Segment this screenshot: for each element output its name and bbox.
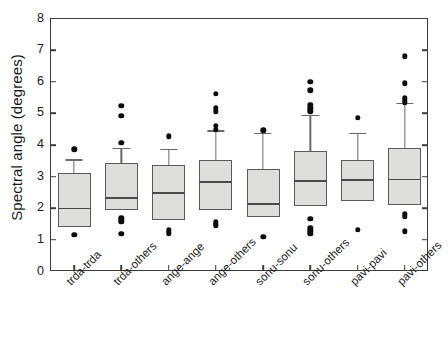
y-tick-label: 1 [30, 232, 44, 246]
whisker-cap-upper [349, 133, 366, 134]
y-tick-mark [51, 81, 56, 83]
outlier-point [355, 227, 360, 232]
y-tick-mark-right [422, 144, 427, 146]
outlier-point [402, 100, 407, 105]
outlier-point [119, 219, 124, 224]
y-tick-label: 2 [30, 200, 44, 214]
outlier-point [308, 216, 313, 221]
whisker-cap-upper [160, 149, 177, 150]
outlier-point [355, 115, 360, 120]
median-line [388, 179, 421, 181]
outlier-point [308, 231, 313, 236]
box [294, 151, 327, 206]
plot-area [50, 18, 428, 271]
y-tick-mark [51, 176, 56, 178]
box [199, 160, 232, 209]
whisker-upper [262, 133, 263, 169]
outlier-point [213, 91, 218, 96]
outlier-point [166, 134, 171, 139]
whisker-upper [168, 149, 169, 165]
median-line [199, 181, 232, 183]
whisker-upper [215, 130, 216, 160]
outlier-point [402, 53, 407, 58]
y-tick-mark [51, 239, 56, 241]
y-tick-mark [51, 144, 56, 146]
median-line [247, 203, 280, 205]
outlier-point [308, 108, 313, 113]
outlier-point [119, 113, 124, 118]
y-tick-label: 5 [30, 105, 44, 119]
y-tick-mark-right [422, 49, 427, 51]
whisker-upper [121, 148, 122, 163]
y-tick-mark-right [422, 113, 427, 115]
box [247, 169, 280, 217]
outlier-point [166, 231, 171, 236]
y-tick-label: 7 [30, 42, 44, 56]
whisker-cap-upper [113, 148, 130, 149]
outlier-point [402, 229, 407, 234]
outlier-point [260, 234, 265, 239]
outlier-point [119, 140, 124, 145]
whisker-cap-upper [255, 133, 272, 134]
y-tick-mark-right [422, 239, 427, 241]
median-line [294, 180, 327, 182]
median-line [58, 208, 91, 210]
box [388, 148, 421, 206]
y-tick-mark-right [422, 81, 427, 83]
whisker-cap-upper [66, 159, 83, 160]
y-tick-label: 8 [30, 11, 44, 25]
median-line [105, 197, 138, 199]
y-tick-mark [51, 49, 56, 51]
y-tick-mark-right [422, 176, 427, 178]
median-line [152, 192, 185, 194]
y-tick-label: 3 [30, 169, 44, 183]
whisker-upper [310, 115, 311, 151]
box [58, 173, 91, 227]
y-tick-label: 6 [30, 74, 44, 88]
whisker-upper [357, 133, 358, 160]
outlier-point [402, 81, 407, 86]
outlier-point [213, 109, 218, 114]
y-tick-mark [51, 207, 56, 209]
whisker-cap-upper [302, 115, 319, 116]
y-tick-label: 0 [30, 264, 44, 278]
whisker-upper [404, 103, 405, 148]
y-tick-mark [51, 113, 56, 115]
outlier-point [119, 231, 124, 236]
outlier-point [119, 103, 124, 108]
outlier-point [402, 214, 407, 219]
outlier-point [308, 79, 313, 84]
median-line [341, 179, 374, 181]
y-axis-label-container: Spectral angle (degrees) [4, 0, 28, 275]
outlier-point [213, 223, 218, 228]
outlier-point [71, 232, 76, 237]
y-tick-mark-right [422, 207, 427, 209]
y-tick-label: 4 [30, 137, 44, 151]
y-axis-tick-labels: 012345678 [28, 0, 44, 337]
boxplot-figure: Spectral angle (degrees) 012345678 trda-… [0, 0, 448, 337]
whisker-upper [73, 159, 74, 173]
outlier-point [308, 88, 313, 93]
y-axis-label: Spectral angle (degrees) [8, 54, 25, 221]
box [105, 163, 138, 211]
outlier-point [71, 147, 76, 152]
